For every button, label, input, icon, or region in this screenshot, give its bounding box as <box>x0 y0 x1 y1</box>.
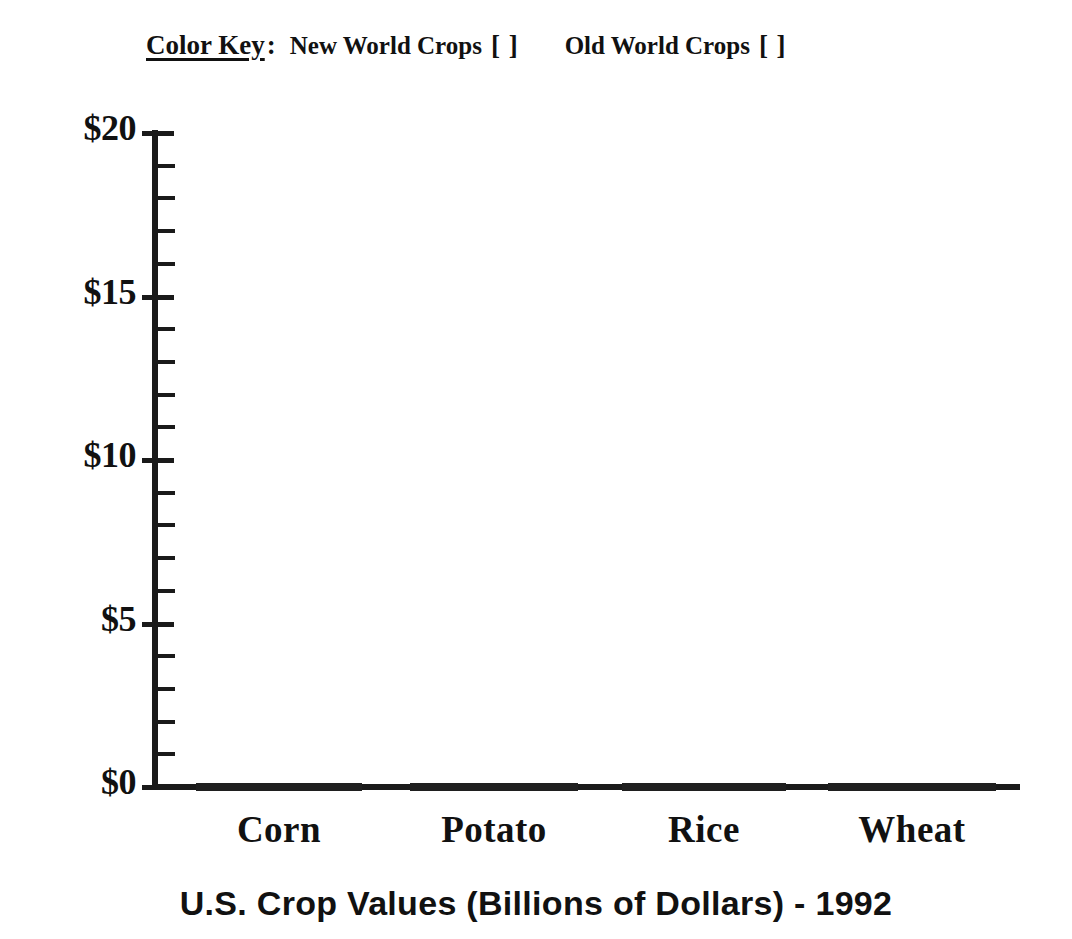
category-label-corn: Corn <box>169 808 389 851</box>
y-axis-label: $5 <box>36 598 136 640</box>
y-tick-major <box>142 622 174 627</box>
y-axis-label: $0 <box>36 761 136 803</box>
category-label-rice: Rice <box>594 808 814 851</box>
y-tick-minor <box>158 262 175 266</box>
bar-potato <box>410 783 578 791</box>
category-label-wheat: Wheat <box>802 808 1022 851</box>
y-tick-minor <box>158 327 175 331</box>
y-tick-minor <box>158 687 175 691</box>
bar-corn <box>196 783 362 791</box>
y-axis-label: $10 <box>36 434 136 476</box>
y-tick-major <box>142 458 174 463</box>
y-tick-minor <box>158 393 175 397</box>
y-tick-minor <box>158 491 175 495</box>
y-tick-minor <box>158 164 175 168</box>
y-tick-minor <box>158 752 175 756</box>
y-tick-major <box>142 131 174 136</box>
y-tick-minor <box>158 654 175 658</box>
bar-wheat <box>828 783 996 791</box>
y-tick-major <box>142 785 174 790</box>
category-label-potato: Potato <box>384 808 604 851</box>
y-axis-label: $15 <box>36 271 136 313</box>
y-tick-minor <box>158 196 175 200</box>
bar-rice <box>622 783 786 791</box>
chart-title: U.S. Crop Values (Billions of Dollars) -… <box>0 884 1072 923</box>
y-tick-minor <box>158 523 175 527</box>
y-axis-label: $20 <box>36 107 136 149</box>
y-tick-minor <box>158 229 175 233</box>
y-tick-minor <box>158 556 175 560</box>
bar-chart-plot: $20$15$10$5$0 CornPotatoRiceWheat <box>0 0 1072 939</box>
y-tick-major <box>142 295 174 300</box>
y-tick-minor <box>158 589 175 593</box>
y-tick-minor <box>158 720 175 724</box>
y-tick-minor <box>158 360 175 364</box>
y-tick-minor <box>158 425 175 429</box>
